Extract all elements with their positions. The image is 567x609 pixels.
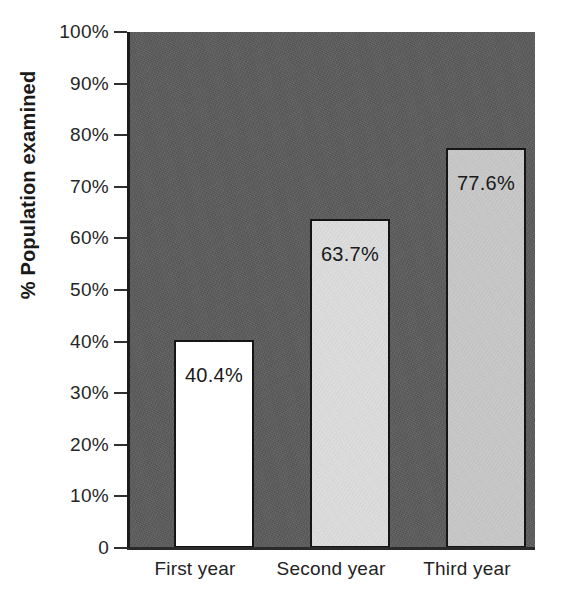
x-axis-line (127, 547, 535, 550)
y-axis-tick: 0 (98, 535, 127, 561)
y-axis-tick-mark (114, 341, 127, 343)
bar-texture (448, 150, 524, 546)
y-axis-tick: 50% (70, 277, 127, 303)
x-axis-category-label: Second year (263, 558, 399, 580)
y-axis-tick: 70% (70, 174, 127, 200)
plot-area: 40.4%63.7%77.6% (127, 32, 535, 548)
y-axis-tick-label: 70% (70, 176, 109, 198)
y-axis-tick: 60% (70, 225, 127, 251)
y-axis-tick-mark (114, 392, 127, 394)
y-axis-tick-mark (114, 83, 127, 85)
y-axis-tick: 10% (70, 483, 127, 509)
y-axis-tick: 80% (70, 122, 127, 148)
y-axis-tick-mark (114, 237, 127, 239)
x-axis-category-label: Third year (399, 558, 535, 580)
y-axis-tick-mark (114, 31, 127, 33)
y-axis-tick-mark (114, 289, 127, 291)
x-axis-labels: First yearSecond yearThird year (127, 558, 547, 592)
bar: 40.4% (174, 340, 254, 548)
y-axis-tick: 90% (70, 71, 127, 97)
y-axis-tick: 40% (70, 329, 127, 355)
y-axis-tick-label: 80% (70, 124, 109, 146)
y-axis-tick-label: 0 (98, 537, 109, 559)
y-axis-tick-mark (114, 134, 127, 136)
bar-chart-figure: % Population examined 010%20%30%40%50%60… (0, 0, 567, 609)
bar: 63.7% (310, 219, 390, 548)
y-axis-tick-label: 100% (59, 21, 109, 43)
y-axis-tick: 30% (70, 380, 127, 406)
y-axis-tick-label: 20% (70, 434, 109, 456)
y-axis-tick-label: 40% (70, 331, 109, 353)
y-axis-tick-label: 10% (70, 485, 109, 507)
bar: 77.6% (446, 148, 526, 548)
y-axis-tick-mark (114, 547, 127, 549)
y-axis: 010%20%30%40%50%60%70%80%90%100% (0, 0, 127, 609)
y-axis-tick-mark (114, 444, 127, 446)
bar-value-label: 40.4% (185, 364, 243, 387)
y-axis-tick: 20% (70, 432, 127, 458)
y-axis-tick-label: 90% (70, 73, 109, 95)
y-axis-tick-label: 30% (70, 382, 109, 404)
bar-value-label: 77.6% (457, 172, 515, 195)
y-axis-tick-mark (114, 186, 127, 188)
y-axis-tick-label: 50% (70, 279, 109, 301)
bar-texture (312, 221, 388, 546)
y-axis-tick: 100% (59, 19, 127, 45)
bar-value-label: 63.7% (321, 243, 379, 266)
y-axis-tick-label: 60% (70, 227, 109, 249)
y-axis-tick-mark (114, 495, 127, 497)
x-axis-category-label: First year (127, 558, 263, 580)
